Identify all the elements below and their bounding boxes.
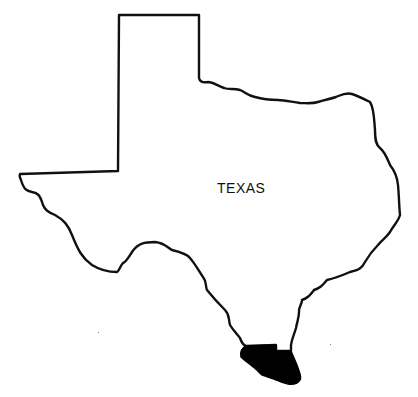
texas-map [0,0,418,397]
texas-state-outline [20,15,400,351]
state-label: TEXAS [217,180,265,196]
print-speck [330,344,331,345]
print-speck [98,332,99,333]
